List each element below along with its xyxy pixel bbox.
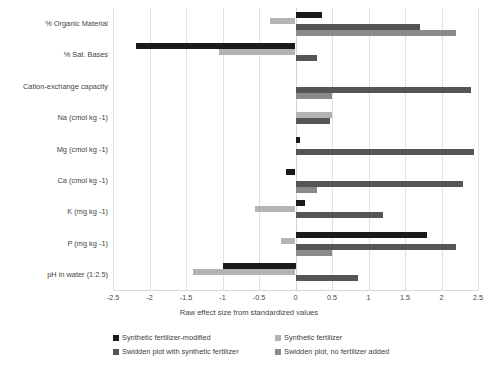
- bar: [255, 206, 295, 212]
- x-axis-title: Raw effect size from standardized values: [0, 308, 498, 317]
- category-axis-labels: % Organic Material% Sat. BasesCation-exc…: [0, 8, 108, 291]
- category-label: Mg (cmol kg -1): [0, 145, 108, 154]
- bar: [296, 137, 300, 143]
- category-group: [113, 102, 478, 133]
- category-label: K (mg kg -1): [0, 207, 108, 216]
- x-tick-label: 2: [440, 293, 444, 302]
- category-group: [113, 260, 478, 291]
- category-group: [113, 228, 478, 259]
- bar: [193, 269, 295, 275]
- x-tick-label: 1: [367, 293, 371, 302]
- legend-item: Synthetic fertilizer-modified: [113, 333, 211, 342]
- legend-label: Swidden plot, no fertilizer added: [284, 347, 389, 356]
- bar: [219, 49, 296, 55]
- x-tick-label: 1.5: [400, 293, 410, 302]
- gridline: [478, 8, 479, 291]
- category-label: % Sat. Bases: [0, 50, 108, 59]
- category-label: pH in water (1:2.5): [0, 270, 108, 279]
- chart-legend: Synthetic fertilizer-modifiedSynthetic f…: [113, 333, 443, 363]
- legend-item: Synthetic fertilizer: [275, 333, 342, 342]
- x-tick-label: 0.5: [327, 293, 337, 302]
- category-group: [113, 165, 478, 196]
- bar: [296, 12, 322, 18]
- x-tick-label: -2: [146, 293, 152, 302]
- legend-label: Swidden plot with synthetic fertilizer: [122, 347, 239, 356]
- category-label: Cation-exchange capacity: [0, 82, 108, 91]
- legend-item: Swidden plot with synthetic fertilizer: [113, 347, 239, 356]
- bar: [296, 118, 330, 124]
- bar: [296, 200, 305, 206]
- legend-label: Synthetic fertilizer-modified: [122, 333, 211, 342]
- bar: [296, 212, 384, 218]
- legend-swatch-icon: [275, 335, 281, 341]
- bar: [286, 169, 295, 175]
- x-tick-label: 2.5: [473, 293, 483, 302]
- bar: [296, 232, 427, 238]
- x-axis-ticks: -2.5-2-1.5-1-0.500.511.522.5: [113, 293, 478, 305]
- bar: [296, 149, 475, 155]
- category-label: Ca (cmol kg -1): [0, 176, 108, 185]
- bar: [296, 55, 318, 61]
- bar: [296, 187, 318, 193]
- x-tick-label: -1.5: [180, 293, 192, 302]
- category-group: [113, 134, 478, 165]
- bar: [296, 30, 457, 36]
- legend-swatch-icon: [113, 335, 119, 341]
- bar: [296, 250, 333, 256]
- category-group: [113, 39, 478, 70]
- x-tick-label: -2.5: [107, 293, 119, 302]
- legend-swatch-icon: [113, 349, 119, 355]
- category-group: [113, 71, 478, 102]
- category-label: % Organic Material: [0, 19, 108, 28]
- effect-size-bar-chart: % Organic Material% Sat. BasesCation-exc…: [0, 0, 498, 375]
- x-tick-label: -1: [219, 293, 225, 302]
- bar: [296, 93, 333, 99]
- x-tick-label: 0: [294, 293, 298, 302]
- category-group: [113, 197, 478, 228]
- legend-label: Synthetic fertilizer: [284, 333, 342, 342]
- bar: [281, 238, 296, 244]
- x-tick-label: -0.5: [253, 293, 265, 302]
- category-group: [113, 8, 478, 39]
- bar: [296, 181, 464, 187]
- category-label: P (mg kg -1): [0, 239, 108, 248]
- legend-swatch-icon: [275, 349, 281, 355]
- bar: [270, 18, 296, 24]
- category-label: Na (cmol kg -1): [0, 113, 108, 122]
- legend-item: Swidden plot, no fertilizer added: [275, 347, 389, 356]
- bar: [296, 275, 358, 281]
- plot-area: [113, 8, 478, 291]
